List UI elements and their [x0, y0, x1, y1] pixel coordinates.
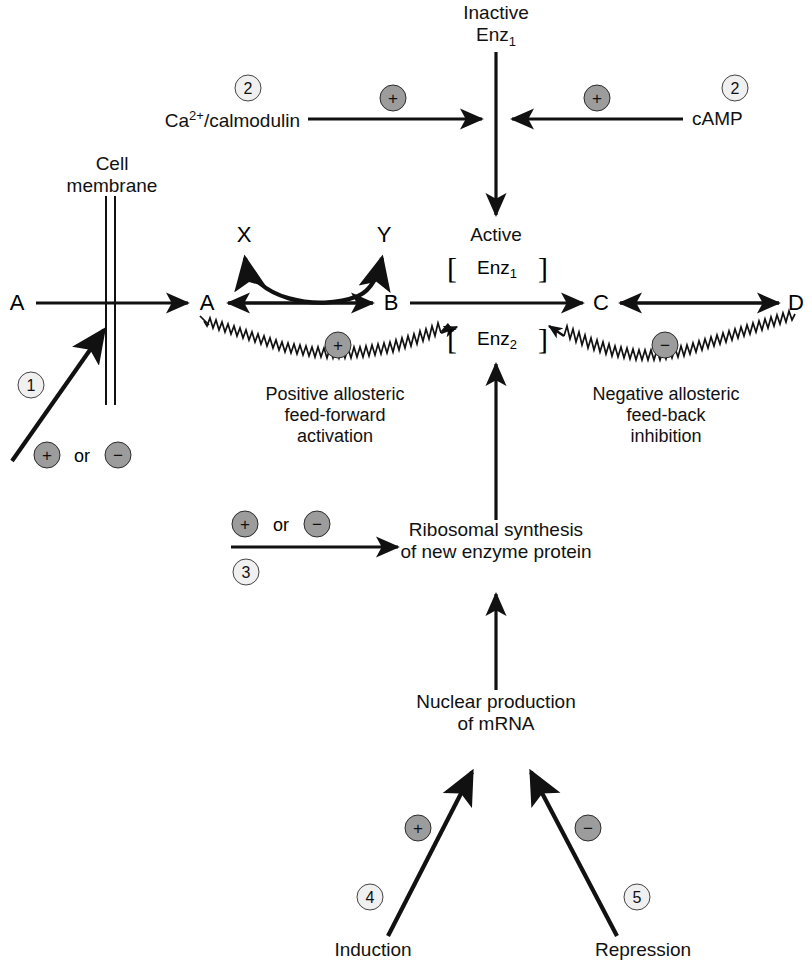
inactive-enzyme-line2: Enz1 — [476, 24, 516, 45]
enz1-subscript: 1 — [510, 266, 517, 281]
enz2-bracket-left: [ — [447, 322, 457, 356]
positive-allosteric-line3: activation — [297, 426, 373, 446]
plus-badge-step3: + — [232, 511, 259, 538]
step-4-badge: 4 — [357, 884, 384, 911]
plus-badge-stimulus: + — [34, 442, 61, 469]
minus-badge-repression: − — [575, 815, 602, 842]
calmodulin-base: Ca — [165, 110, 189, 131]
repression-label: Repression — [595, 939, 691, 961]
plus-badge-camp: + — [584, 85, 611, 112]
cofactor-curved-arrow — [245, 258, 382, 303]
negative-allosteric-caption: Negative allostericfeed-backinhibition — [592, 384, 739, 448]
diagram-canvas: InactiveEnz1 Ca2+/calmodulin cAMP 2 + + … — [0, 0, 812, 969]
enz-subscript: 1 — [509, 34, 516, 49]
cell-membrane-line2: membrane — [67, 175, 158, 196]
repression-arrow — [531, 772, 617, 936]
plus-badge-induction: + — [405, 815, 432, 842]
inactive-enzyme-label: InactiveEnz1 — [463, 2, 528, 50]
step-2-right-badge: 2 — [722, 75, 749, 102]
cell-membrane-lines — [106, 196, 115, 405]
step-5-badge: 5 — [624, 884, 651, 911]
enz1-bracket-right: ] — [538, 251, 548, 285]
minus-badge-allosteric: − — [652, 332, 679, 359]
negative-allosteric-line1: Negative allosteric — [592, 384, 739, 404]
positive-allosteric-line1: Positive allosteric — [265, 384, 404, 404]
enz2-text: Enz — [477, 328, 510, 349]
calmodulin-label: Ca2+/calmodulin — [165, 108, 300, 133]
plus-badge-allosteric: + — [325, 332, 352, 359]
cell-membrane-label: Cellmembrane — [67, 153, 158, 198]
enz2-label: Enz2 — [477, 328, 517, 353]
camp-label: cAMP — [692, 108, 743, 130]
ribosomal-line2: of new enzyme protein — [400, 541, 591, 562]
nuclear-production-label: Nuclear productionof mRNA — [416, 691, 575, 736]
positive-allosteric-line2: feed-forward — [284, 405, 385, 425]
node-c: C — [593, 290, 609, 316]
induction-arrow — [388, 772, 472, 936]
negative-allosteric-line2: feed-back — [626, 405, 705, 425]
minus-badge-stimulus: − — [105, 442, 132, 469]
nuclear-line1: Nuclear production — [416, 691, 575, 712]
induction-label: Induction — [334, 939, 411, 961]
ribosomal-line1: Ribosomal synthesis — [409, 519, 583, 540]
minus-badge-step3: − — [304, 511, 331, 538]
node-x: X — [237, 222, 252, 248]
inactive-enzyme-line1: Inactive — [463, 2, 528, 23]
enz1-bracket-left: [ — [447, 251, 457, 285]
enz2-subscript: 2 — [510, 337, 517, 352]
calmodulin-rest: /calmodulin — [204, 110, 300, 131]
enz-text: Enz — [476, 24, 509, 45]
calmodulin-superscript: 2+ — [189, 108, 204, 123]
active-enzyme-label: Active — [470, 224, 522, 246]
ribosomal-synthesis-label: Ribosomal synthesisof new enzyme protein — [400, 519, 591, 564]
enz1-label: Enz1 — [477, 257, 517, 282]
negative-allosteric-line3: inhibition — [630, 426, 701, 446]
step-2-left-badge: 2 — [235, 75, 262, 102]
node-b: B — [384, 290, 399, 316]
enz2-bracket-right: ] — [538, 322, 548, 356]
node-a-outside: A — [10, 290, 25, 316]
or-word-step3: or — [273, 515, 289, 536]
node-y: Y — [377, 222, 392, 248]
node-d: D — [788, 290, 804, 316]
enz1-text: Enz — [477, 257, 510, 278]
plus-badge-calmodulin: + — [380, 85, 407, 112]
step-3-badge: 3 — [233, 559, 260, 586]
nuclear-line2: of mRNA — [457, 713, 534, 734]
cell-membrane-line1: Cell — [96, 153, 129, 174]
positive-allosteric-caption: Positive allostericfeed-forwardactivatio… — [265, 384, 404, 448]
node-a-inside: A — [200, 290, 215, 316]
step-1-badge: 1 — [18, 372, 45, 399]
or-word-stimulus: or — [74, 446, 90, 467]
